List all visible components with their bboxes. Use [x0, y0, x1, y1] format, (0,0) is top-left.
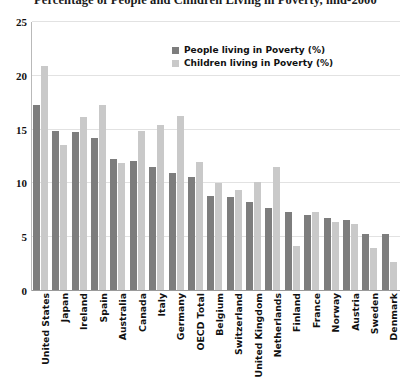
x-tick: Germany: [167, 293, 186, 389]
chart-title: Percentage of People and Children Living…: [34, 0, 405, 9]
bar-children: [157, 125, 164, 291]
x-axis-category-labels: United StatesJapanIrelandSpainAustraliaC…: [31, 293, 399, 392]
x-tick: Netherlands: [263, 293, 282, 389]
x-tick-label: United Kingdom: [254, 293, 264, 377]
bar-people: [382, 234, 389, 291]
x-tick-label: United States: [41, 293, 51, 365]
chart-legend: People living in Poverty (%)Children liv…: [172, 44, 333, 70]
bar-people: [188, 177, 195, 291]
bar-people: [91, 138, 98, 291]
x-tick-label: Austria: [351, 293, 361, 331]
x-tick: United States: [31, 293, 50, 389]
bar-group: [129, 22, 148, 291]
x-tick: Canada: [128, 293, 147, 389]
bar-children: [293, 246, 300, 291]
legend-swatch-icon: [172, 60, 179, 67]
legend-item: Children living in Poverty (%): [172, 57, 333, 70]
bar-children: [215, 183, 222, 291]
x-axis-line: [32, 290, 400, 291]
x-tick-label: Finland: [292, 293, 302, 332]
x-tick-label: Germany: [176, 293, 186, 340]
bar-group: [32, 22, 51, 291]
x-tick: United Kingdom: [244, 293, 263, 389]
bar-children: [370, 248, 377, 291]
bar-children: [138, 131, 145, 291]
bar-people: [265, 208, 272, 291]
x-tick: Sweden: [360, 293, 379, 389]
legend-label: Children living in Poverty (%): [184, 57, 333, 70]
bar-children: [60, 145, 67, 291]
x-tick: Norway: [322, 293, 341, 389]
bar-people: [110, 159, 117, 291]
x-tick-label: Norway: [331, 293, 341, 332]
x-tick: Japan: [50, 293, 69, 389]
bar-children: [390, 262, 397, 291]
bar-people: [169, 173, 176, 291]
bar-people: [149, 167, 156, 291]
x-tick: France: [302, 293, 321, 389]
bar-people: [285, 212, 292, 291]
x-tick-label: Canada: [138, 293, 148, 332]
x-tick-label: Australia: [118, 293, 128, 340]
x-tick-label: Netherlands: [273, 293, 283, 357]
bar-children: [177, 116, 184, 291]
bar-people: [33, 105, 40, 291]
x-tick-label: Denmark: [389, 293, 399, 340]
legend-swatch-icon: [172, 47, 179, 54]
x-tick: Switzerland: [225, 293, 244, 389]
bar-children: [99, 105, 106, 291]
bar-group: [381, 22, 400, 291]
x-tick-label: Italy: [157, 293, 167, 316]
legend-item: People living in Poverty (%): [172, 44, 333, 57]
bar-children: [312, 212, 319, 291]
bar-group: [342, 22, 361, 291]
bar-group: [361, 22, 380, 291]
bar-children: [332, 222, 339, 291]
y-tick-label: 10: [16, 178, 27, 189]
bar-children: [273, 167, 280, 291]
bar-people: [72, 132, 79, 291]
y-tick-label: 0: [22, 286, 28, 297]
bar-children: [351, 224, 358, 291]
bar-children: [235, 190, 242, 291]
bar-people: [246, 202, 253, 291]
x-tick-label: Spain: [99, 293, 109, 322]
x-tick-label: Switzerland: [234, 293, 244, 355]
y-tick-label: 25: [16, 17, 27, 28]
x-tick: Ireland: [70, 293, 89, 389]
x-tick: Belgium: [205, 293, 224, 389]
bar-people: [304, 215, 311, 291]
bar-children: [254, 182, 261, 291]
bar-group: [71, 22, 90, 291]
x-tick-label: Sweden: [370, 293, 380, 334]
x-tick: Austria: [341, 293, 360, 389]
bar-children: [41, 66, 48, 291]
x-tick: Finland: [283, 293, 302, 389]
bar-children: [118, 163, 125, 291]
bar-people: [52, 131, 59, 291]
bar-group: [51, 22, 70, 291]
y-axis: 0510152025: [0, 0, 30, 392]
x-tick: Spain: [89, 293, 108, 389]
bar-people: [207, 196, 214, 291]
x-tick-label: Japan: [60, 293, 70, 322]
x-tick: Australia: [108, 293, 127, 389]
x-tick-label: Belgium: [215, 293, 225, 336]
bar-people: [130, 161, 137, 291]
bar-children: [196, 162, 203, 291]
bar-people: [362, 234, 369, 291]
bar-group: [109, 22, 128, 291]
y-tick-label: 5: [22, 232, 28, 243]
bar-children: [80, 117, 87, 291]
legend-label: People living in Poverty (%): [184, 44, 325, 57]
y-tick-label: 15: [16, 125, 27, 136]
bar-people: [343, 220, 350, 291]
x-tick: OECD Total: [186, 293, 205, 389]
bar-group: [148, 22, 167, 291]
bar-people: [227, 197, 234, 291]
bar-group: [90, 22, 109, 291]
x-tick: Italy: [147, 293, 166, 389]
poverty-bar-chart: Percentage of People and Children Living…: [0, 0, 405, 392]
y-tick-label: 20: [16, 71, 27, 82]
bar-people: [324, 218, 331, 291]
